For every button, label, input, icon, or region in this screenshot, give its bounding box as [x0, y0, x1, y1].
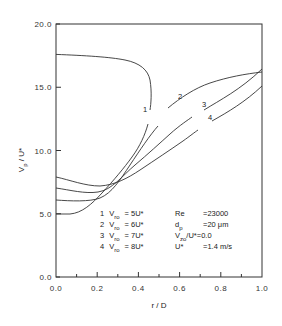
y-axis-label: Vp / U* [17, 148, 28, 172]
y-label-rest: / U* [17, 148, 26, 164]
curve-label-3: 3 [202, 100, 206, 109]
legend-entry-2: 2Vro= 6U* [100, 220, 144, 231]
y-tick-label: 5.0 [39, 210, 52, 219]
legend-entry-4: 4Vro= 8U* [100, 242, 144, 253]
legend-entry-1: 1Vro= 5U* [100, 209, 144, 220]
y-tick-label: 0.0 [39, 273, 52, 282]
chart: 0.0 5.0 10.0 15.0 20.0 0.0 0.2 0.4 0.6 0… [0, 0, 282, 326]
x-tick-label: 0.4 [132, 284, 145, 293]
svg-text:Vp / U*: Vp / U* [17, 148, 28, 172]
plot-frame [56, 24, 262, 277]
param-ustar: U*=1.4 m/s [175, 242, 232, 251]
legend: 1Vro= 5U* 2Vro= 6U* 3Vro= 7U* 4Vro= 8U* [100, 209, 144, 253]
curve-2 [56, 72, 262, 201]
curve-label-4: 4 [208, 113, 212, 122]
x-tick-label: 0.0 [50, 284, 63, 293]
legend-entry-3: 3Vro= 7U* [100, 231, 144, 242]
parameters: Re=23000 dp=20 μm Vzo/U*=0.0 U*=1.4 m/s [175, 209, 232, 251]
y-tick-label: 10.0 [34, 147, 52, 156]
x-axis-label: r / D [151, 301, 166, 310]
param-vzo: Vzo/U*=0.0 [175, 231, 212, 242]
param-dp: dp=20 μm [175, 220, 228, 231]
curve-3 [56, 69, 262, 193]
curve-label-2: 2 [178, 92, 182, 101]
param-re: Re=23000 [175, 209, 228, 218]
x-tick-label: 0.2 [91, 284, 104, 293]
x-tick-label: 1.0 [256, 284, 269, 293]
x-tick-label: 0.6 [173, 284, 186, 293]
y-tick-label: 15.0 [34, 83, 52, 92]
x-tick-label: 0.8 [214, 284, 227, 293]
curve-4 [56, 86, 262, 186]
x-axis [77, 272, 242, 277]
curve-label-1: 1 [143, 105, 147, 114]
y-axis [56, 24, 61, 277]
y-tick-label: 20.0 [34, 20, 52, 29]
